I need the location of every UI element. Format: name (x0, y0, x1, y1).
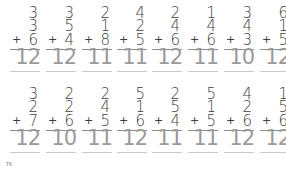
answer: 11 (193, 47, 218, 68)
answer-underline (10, 152, 40, 153)
plus-sign: + (154, 34, 163, 45)
answer-underline (10, 71, 40, 72)
answer: 11 (193, 128, 218, 149)
answer: 12 (51, 47, 76, 68)
answer: 12 (15, 47, 40, 68)
answer-underline (117, 152, 147, 153)
answer: 12 (157, 47, 182, 68)
answer: 11 (157, 128, 182, 149)
plus-sign: + (262, 115, 271, 126)
answer-underline (46, 71, 76, 72)
plus-sign: + (190, 115, 199, 126)
answer-underline (224, 71, 254, 72)
answer-underline (224, 152, 254, 153)
answer: 12 (229, 128, 254, 149)
answer: 10 (229, 47, 254, 68)
answer: 12 (265, 128, 286, 149)
answer: 12 (122, 128, 147, 149)
answer-underline (152, 71, 182, 72)
plus-sign: + (84, 115, 93, 126)
plus-sign: + (190, 34, 199, 45)
answer-underline (117, 71, 147, 72)
plus-sign: + (48, 34, 57, 45)
plus-sign: + (119, 115, 128, 126)
page-number: T6 (6, 161, 12, 167)
answer-underline (188, 152, 218, 153)
answer: 11 (87, 47, 112, 68)
plus-sign: + (48, 115, 57, 126)
answer: 11 (87, 128, 112, 149)
plus-sign: + (119, 34, 128, 45)
answer: 10 (51, 128, 76, 149)
plus-sign: + (226, 115, 235, 126)
answer-underline (152, 152, 182, 153)
answer-underline (82, 152, 112, 153)
plus-sign: + (12, 115, 21, 126)
plus-sign: + (12, 34, 21, 45)
answer-underline (46, 152, 76, 153)
answer-underline (260, 152, 286, 153)
answer-underline (188, 71, 218, 72)
plus-sign: + (262, 34, 271, 45)
answer: 12 (15, 128, 40, 149)
answer: 11 (122, 47, 147, 68)
plus-sign: + (154, 115, 163, 126)
answer-underline (82, 71, 112, 72)
answer-underline (260, 71, 286, 72)
plus-sign: + (226, 34, 235, 45)
answer: 12 (265, 47, 286, 68)
plus-sign: + (84, 34, 93, 45)
